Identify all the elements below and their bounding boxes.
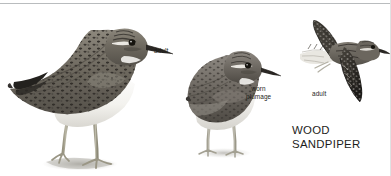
top-divider-rule <box>0 3 391 4</box>
label-worn-plumage: worn plumage <box>246 85 271 100</box>
label-adult-flight: adult <box>312 90 326 98</box>
bird-illustration-worn-plumage <box>176 42 282 166</box>
bird-illustration-standing-adult <box>6 12 186 176</box>
illustration-plate: adult worn plumage adult WOOD SANDPIPER <box>0 0 391 176</box>
species-name-heading: WOOD SANDPIPER <box>292 124 361 151</box>
label-adult-standing: adult <box>154 47 168 55</box>
